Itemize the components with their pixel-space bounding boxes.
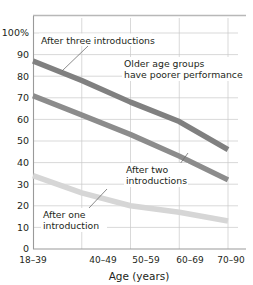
x-tick-18-39: 18–39	[19, 255, 47, 265]
annotation-older-age-groups: Older age groups have poorer performance	[122, 57, 243, 81]
y-tick-0: 0	[23, 243, 29, 254]
x-axis-title: Age (years)	[109, 270, 170, 282]
annotation-older-age-line1: Older age groups	[124, 58, 205, 69]
annotation-after-one-line1: After one	[43, 209, 86, 220]
annotation-older-age-line2: have poorer performance	[124, 69, 243, 80]
annotation-after-two-line2: introductions	[126, 175, 187, 186]
y-tick-10: 10	[17, 222, 29, 233]
annotation-after-one-introduction: After one introduction	[41, 208, 107, 232]
annotation-after-two-introductions: After two introductions	[124, 163, 188, 187]
y-tick-20: 20	[17, 200, 29, 211]
chart-figure: 100% 90 80 70 60 50 40 30 20 10 0 18–39 …	[0, 0, 253, 285]
y-tick-70: 70	[17, 92, 29, 103]
x-tick-40-49: 40–49	[89, 255, 117, 265]
line-chart: 100% 90 80 70 60 50 40 30 20 10 0 18–39 …	[0, 0, 253, 285]
y-tick-100: 100%	[2, 27, 29, 38]
y-tick-80: 80	[17, 71, 29, 82]
x-tick-60-69: 60–69	[176, 255, 204, 265]
y-tick-30: 30	[17, 179, 29, 190]
x-tick-50-59: 50–59	[132, 255, 160, 265]
annotation-after-three-text: After three introductions	[41, 35, 155, 46]
annotation-after-one-line2: introduction	[43, 220, 99, 231]
y-axis-tick-labels: 100% 90 80 70 60 50 40 30 20 10 0	[2, 27, 29, 254]
x-tick-70-90: 70–90	[217, 255, 245, 265]
y-tick-60: 60	[17, 114, 29, 125]
x-axis-tick-labels: 18–39 40–49 50–59 60–69 70–90	[19, 255, 245, 265]
y-tick-90: 90	[17, 49, 29, 60]
y-tick-50: 50	[17, 135, 29, 146]
annotation-after-three-introductions: After three introductions	[39, 34, 155, 47]
y-tick-40: 40	[17, 157, 29, 168]
annotation-after-two-line1: After two	[126, 164, 169, 175]
